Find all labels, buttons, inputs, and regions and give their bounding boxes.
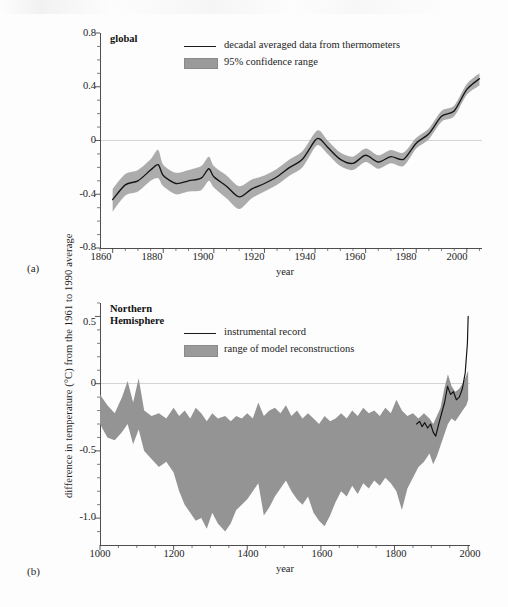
panel-b-xtick-1: 1200 xyxy=(152,548,196,559)
panel-b-xtick-3: 1600 xyxy=(300,548,344,559)
panel-b-title: Northern Hemisphere xyxy=(110,303,164,327)
panel-b-xtick-2: 1400 xyxy=(226,548,270,559)
panel-b-ytick-3: -1.0 xyxy=(60,511,96,522)
panel-b-ytick-1: 0 xyxy=(60,377,96,388)
panel-b-y-ticks xyxy=(95,303,100,532)
panel-b-legend-line-marker xyxy=(184,333,216,334)
panel-b-chart: 0.5 0 -0.5 -1.0 1000 1200 1400 1600 1800… xyxy=(0,0,508,607)
panel-b-legend-label-0: instrumental record xyxy=(224,326,306,337)
panel-b-legend-band-marker xyxy=(184,345,218,357)
panel-b-xtick-0: 1000 xyxy=(78,548,122,559)
panel-b-ytick-0: 0.5 xyxy=(60,316,96,327)
panel-b-reconstruction-band xyxy=(100,370,468,531)
panel-b-legend-label-1: range of model reconstructions xyxy=(224,343,354,354)
panel-b-ytick-2: -0.5 xyxy=(60,444,96,455)
panel-b-xtick-4: 1800 xyxy=(374,548,418,559)
panel-b-x-axis-label: year xyxy=(250,563,320,574)
panel-b-xtick-5: 2000 xyxy=(448,548,492,559)
figure-page: difference in temperature (°C) from the … xyxy=(0,0,508,607)
